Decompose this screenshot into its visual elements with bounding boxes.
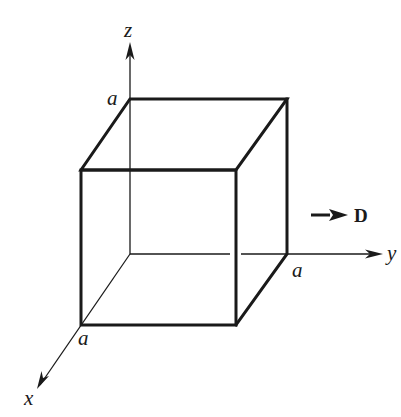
cube-front-face [81,170,236,325]
cube-drawing [0,0,401,417]
y-intercept-label: a [292,260,303,281]
x-axis-label: x [24,388,33,409]
y-axis-label: y [387,243,396,264]
z-axis-label: z [124,20,132,41]
x-axis [37,254,130,389]
z-intercept-label: a [107,88,118,109]
field-d-label: D [354,206,368,225]
z-axis [126,42,135,254]
cube-edges [81,99,287,325]
y-axis [130,250,383,259]
field-arrow [311,209,348,221]
d-arrow-icon [329,209,348,221]
cube-diagram: z a y a a x D [0,0,401,417]
x-intercept-label: a [78,328,89,349]
